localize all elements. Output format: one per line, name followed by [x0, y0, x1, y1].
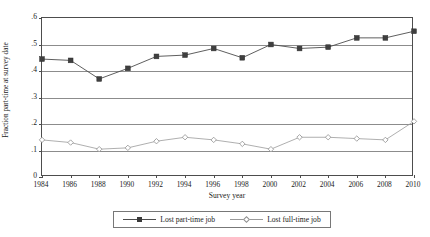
legend-key-filled-square-icon: [123, 215, 156, 224]
chart-legend: Lost part-time job Lost full-time job: [113, 211, 331, 228]
legend-item-full-time: Lost full-time job: [230, 212, 321, 227]
data-point-marker: [68, 58, 73, 63]
y-axis-tick-label: .5: [5, 40, 37, 48]
data-point-marker: [297, 46, 302, 51]
legend-key-open-diamond-icon: [230, 215, 263, 224]
data-point-marker: [97, 146, 102, 151]
y-axis-tick-label: .4: [5, 66, 37, 74]
data-point-marker: [211, 137, 216, 142]
data-point-marker: [125, 66, 130, 71]
y-axis-tick-label: .6: [5, 13, 37, 21]
data-point-marker: [240, 141, 245, 146]
data-point-marker: [354, 136, 359, 141]
data-point-marker: [268, 146, 273, 151]
data-point-marker: [297, 135, 302, 140]
data-point-marker: [211, 46, 216, 51]
data-point-marker: [326, 45, 331, 50]
series-part-time: [40, 29, 417, 82]
x-axis-tick-label: 2010: [396, 180, 430, 189]
y-axis-tick-label: .2: [5, 119, 37, 127]
data-point-marker: [383, 137, 388, 142]
y-axis-tick-label: .1: [5, 146, 37, 154]
data-point-marker: [40, 57, 45, 62]
chart-figure: Fraction part-time at survey date 0.1.2.…: [0, 0, 430, 237]
data-point-marker: [269, 42, 274, 47]
data-point-marker: [125, 145, 130, 150]
data-point-marker: [354, 35, 359, 40]
legend-label-full-time: Lost full-time job: [267, 215, 321, 224]
data-point-marker: [183, 53, 188, 58]
data-point-marker: [97, 77, 102, 82]
legend-item-part-time: Lost part-time job: [123, 212, 215, 227]
data-point-marker: [182, 135, 187, 140]
y-axis-tick-label: 0: [5, 172, 37, 180]
x-axis-tick: [414, 175, 415, 178]
series-layer: [42, 18, 414, 177]
plot-area: [41, 17, 413, 176]
data-point-marker: [240, 55, 245, 60]
x-axis-title: Survey year: [41, 191, 413, 200]
data-point-marker: [411, 119, 416, 124]
legend-label-part-time: Lost part-time job: [160, 215, 215, 224]
data-point-marker: [412, 29, 417, 34]
data-point-marker: [325, 135, 330, 140]
data-point-marker: [39, 137, 44, 142]
data-point-marker: [154, 54, 159, 59]
series-full-time: [39, 119, 416, 152]
data-point-marker: [68, 140, 73, 145]
data-point-marker: [154, 139, 159, 144]
data-point-marker: [383, 35, 388, 40]
y-axis-tick-label: .3: [5, 93, 37, 101]
series-line: [42, 121, 414, 149]
